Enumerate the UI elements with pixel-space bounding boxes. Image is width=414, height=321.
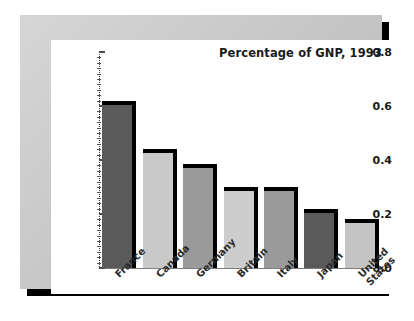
bar xyxy=(143,149,177,268)
y-axis-minor-tick xyxy=(97,117,101,118)
y-axis-minor-tick xyxy=(97,165,101,166)
y-axis-minor-tick xyxy=(97,101,101,102)
y-axis-tick-label: 0.6 xyxy=(348,100,392,113)
y-axis-minor-tick xyxy=(97,219,101,220)
y-axis-minor-tick xyxy=(97,122,101,123)
y-axis-minor-tick xyxy=(97,144,101,145)
y-axis-minor-tick xyxy=(97,241,101,242)
plot-area: 0.00.20.40.60.8 FranceCanadaGermanyBrita… xyxy=(51,40,392,294)
y-axis-minor-tick xyxy=(97,68,101,69)
y-axis-minor-tick xyxy=(97,74,101,75)
y-axis-minor-tick xyxy=(97,203,101,204)
y-axis-tick-mark xyxy=(99,51,105,53)
y-axis-tick-label: 0.8 xyxy=(348,46,392,59)
y-axis-minor-tick xyxy=(97,198,101,199)
y-axis-minor-tick xyxy=(97,63,101,64)
figure-frame: Percentage of GNP, 1993 0.00.20.40.60.8 … xyxy=(20,15,382,289)
bar-fill xyxy=(143,149,177,268)
y-axis-minor-tick xyxy=(97,176,101,177)
bar xyxy=(102,101,136,268)
chart-canvas: Percentage of GNP, 1993 0.00.20.40.60.8 … xyxy=(51,40,392,294)
y-axis-minor-tick xyxy=(97,171,101,172)
y-axis-tick-label: 0.4 xyxy=(348,154,392,167)
y-axis-minor-tick xyxy=(97,246,101,247)
bar-fill xyxy=(102,101,136,268)
y-axis-minor-tick xyxy=(97,133,101,134)
figure-root: Percentage of GNP, 1993 0.00.20.40.60.8 … xyxy=(0,0,414,321)
y-axis-minor-tick xyxy=(97,230,101,231)
y-axis-minor-tick xyxy=(97,263,101,264)
y-axis-minor-tick xyxy=(97,128,101,129)
y-axis-minor-tick xyxy=(97,95,101,96)
y-axis-minor-tick xyxy=(97,182,101,183)
y-axis-minor-tick xyxy=(97,209,101,210)
y-axis-minor-tick xyxy=(97,79,101,80)
y-axis-minor-tick xyxy=(97,90,101,91)
y-axis-minor-tick xyxy=(97,84,101,85)
y-axis-minor-tick xyxy=(97,57,101,58)
y-axis-minor-tick xyxy=(97,225,101,226)
y-axis-minor-tick xyxy=(97,192,101,193)
y-axis-minor-tick xyxy=(97,111,101,112)
y-axis-minor-tick xyxy=(97,252,101,253)
y-axis-minor-tick xyxy=(97,149,101,150)
y-axis-minor-tick xyxy=(97,257,101,258)
y-axis-minor-tick xyxy=(97,138,101,139)
y-axis-minor-tick xyxy=(97,236,101,237)
y-axis-minor-tick xyxy=(97,187,101,188)
y-axis-minor-tick xyxy=(97,155,101,156)
